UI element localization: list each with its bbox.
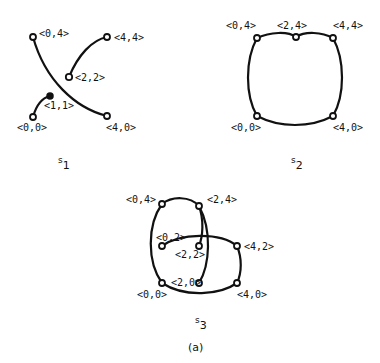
panel-s3: <0,4> <2,4> <0,2> <2,2> <4,2> <0,0> <2,0… (126, 194, 274, 332)
node-s1-0-0 (30, 114, 36, 120)
label-s3-2-4: <2,4> (207, 194, 237, 205)
node-s3-4-0 (234, 280, 240, 286)
node-s3-0-4 (159, 201, 165, 207)
caption-s1: s1 (58, 155, 70, 172)
panel-s2: <0,4> <2,4> <4,4> <0,0> <4,0> s2 (226, 20, 363, 172)
edge-s2-0-0-to-0-4 (248, 38, 257, 116)
label-s2-4-4: <4,4> (333, 20, 363, 31)
label-s3-4-0: <4,0> (237, 289, 267, 300)
label-s2-2-4: <2,4> (277, 20, 307, 31)
label-s2-0-0: <0,0> (231, 122, 261, 133)
label-s1-4-0: <4,0> (106, 122, 136, 133)
caption-s3: s3 (195, 315, 207, 332)
node-s1-1-1 (47, 93, 53, 99)
label-s3-4-2: <4,2> (244, 241, 274, 252)
node-s1-2-2 (66, 74, 72, 80)
node-s3-2-4 (196, 203, 202, 209)
edge-s1-2-2-to-4-4 (69, 37, 107, 77)
edge-s2-2-4-to-4-4 (296, 33, 333, 38)
node-s2-4-4 (330, 35, 336, 41)
node-s1-0-4 (30, 34, 36, 40)
label-s3-2-2: <2,2> (175, 249, 205, 260)
node-s3-4-2 (234, 243, 240, 249)
label-s1-1-1: <1,1> (44, 100, 74, 111)
node-s1-4-0 (104, 113, 110, 119)
label-s3-0-4: <0,4> (126, 194, 156, 205)
label-s1-0-4: <0,4> (39, 28, 69, 39)
label-s1-2-2: <2,2> (75, 72, 105, 83)
diagram-canvas: <0,4> <4,4> <2,2> <1,1> <0,0> <4,0> s1 <… (0, 0, 380, 363)
edge-s2-4-0-to-0-0 (257, 116, 333, 125)
edge-s2-0-4-to-2-4 (257, 33, 296, 38)
node-s2-4-0 (330, 113, 336, 119)
label-s3-2-0: <2,0> (171, 277, 201, 288)
edge-s3-0-4-to-2-4 (162, 198, 199, 206)
node-s3-0-0 (159, 280, 165, 286)
node-s1-4-4 (104, 34, 110, 40)
label-s3-0-2: <0,2> (156, 232, 186, 243)
node-s2-0-0 (254, 113, 260, 119)
label-s2-4-0: <4,0> (333, 122, 363, 133)
label-s2-0-4: <0,4> (226, 20, 256, 31)
node-s2-0-4 (254, 35, 260, 41)
panel-s1: <0,4> <4,4> <2,2> <1,1> <0,0> <4,0> s1 (17, 28, 144, 172)
label-s1-4-4: <4,4> (114, 32, 144, 43)
node-s3-0-2 (159, 243, 165, 249)
node-s2-2-4 (293, 34, 299, 40)
caption-s2: s2 (291, 155, 303, 172)
label-s3-0-0: <0,0> (137, 289, 167, 300)
edge-s3-4-2-to-4-0 (237, 246, 241, 283)
figure-caption: (a) (188, 341, 203, 354)
edge-s2-4-4-to-4-0 (333, 38, 342, 116)
label-s1-0-0: <0,0> (17, 122, 47, 133)
